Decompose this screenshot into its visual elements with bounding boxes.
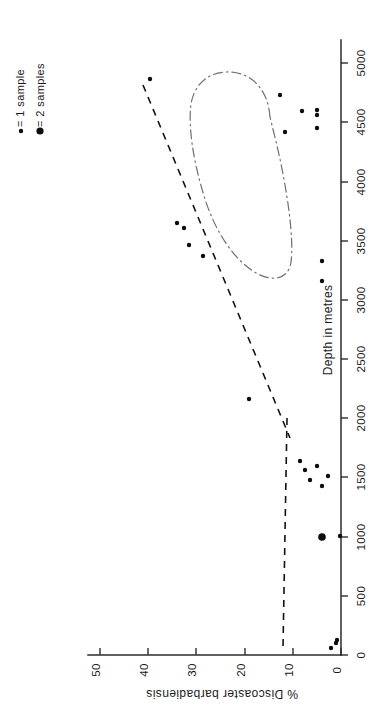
data-point xyxy=(278,93,282,97)
depth-tick-label-1500: 1500 xyxy=(355,463,367,490)
data-point xyxy=(247,397,251,401)
data-point xyxy=(148,77,152,81)
data-point xyxy=(320,484,324,488)
legend: = 1 sample = 2 samples xyxy=(14,63,46,135)
depth-tick-label-5000: 5000 xyxy=(355,49,367,76)
depth-axis-title: Depth in metres xyxy=(321,285,335,376)
depth-tick-label-2500: 2500 xyxy=(355,345,367,372)
data-point xyxy=(303,468,307,472)
data-point xyxy=(298,459,302,463)
percent-tick-label-40: 40 xyxy=(138,663,150,677)
depth-tick-label-3000: 3000 xyxy=(355,286,367,313)
data-point xyxy=(335,638,339,642)
depth-tick-label-1000: 1000 xyxy=(355,523,367,550)
percent-tick-label-0: 0 xyxy=(331,667,343,674)
percent-tick-label-30: 30 xyxy=(186,663,198,677)
percent-ticks-group: 0 10 20 30 40 50 % Discoaster barbadiens… xyxy=(90,648,343,701)
data-point xyxy=(329,646,333,650)
axes-group xyxy=(88,40,341,655)
depth-tick-label-0: 0 xyxy=(355,652,367,659)
percent-tick-label-50: 50 xyxy=(90,663,102,677)
data-point xyxy=(338,534,342,538)
data-point xyxy=(315,126,319,130)
data-point xyxy=(326,474,330,478)
upper-trend-line xyxy=(143,85,290,438)
data-point xyxy=(315,113,319,117)
depth-tick-label-2000: 2000 xyxy=(355,404,367,431)
percent-axis-title: % Discoaster barbadiensis xyxy=(146,687,298,701)
data-point xyxy=(320,279,324,283)
lower-trend-line xyxy=(283,418,287,648)
data-point xyxy=(300,109,304,113)
data-point xyxy=(315,464,319,468)
legend-label-one-sample: = 1 sample xyxy=(14,69,26,127)
legend-symbol-one-sample xyxy=(19,129,23,133)
data-point xyxy=(308,478,312,482)
data-point xyxy=(315,108,319,112)
figure-canvas: 0 500 1000 1500 2000 2500 3000 3500 4000… xyxy=(0,0,379,714)
data-point xyxy=(320,259,324,263)
percent-tick-label-20: 20 xyxy=(235,663,247,677)
depth-tick-label-3500: 3500 xyxy=(355,227,367,254)
depth-tick-label-500: 500 xyxy=(355,586,367,606)
data-point xyxy=(283,130,287,134)
data-point xyxy=(182,226,186,230)
data-points-one-sample xyxy=(148,77,342,650)
data-point-two-samples xyxy=(318,533,326,541)
percent-tick-label-10: 10 xyxy=(283,663,295,677)
data-point xyxy=(187,243,191,247)
data-points-two-samples xyxy=(318,533,326,541)
scatter-plot: 0 500 1000 1500 2000 2500 3000 3500 4000… xyxy=(0,0,379,714)
legend-label-two-samples: = 2 samples xyxy=(34,63,46,127)
depth-tick-label-4500: 4500 xyxy=(355,108,367,135)
data-point xyxy=(175,221,179,225)
legend-symbol-two-samples xyxy=(36,127,43,134)
depth-tick-label-4000: 4000 xyxy=(355,168,367,195)
data-point xyxy=(201,254,205,258)
depth-ticks-group: 0 500 1000 1500 2000 2500 3000 3500 4000… xyxy=(321,49,367,658)
cluster-enclosure-contour xyxy=(190,72,292,278)
